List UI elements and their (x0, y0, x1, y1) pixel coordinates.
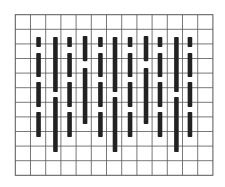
dash-segment (144, 36, 149, 61)
dash-segment (53, 97, 58, 152)
dash-segment (98, 112, 103, 137)
dash-segment (36, 82, 41, 107)
dash-segment (128, 112, 133, 137)
dash-segment (158, 37, 163, 47)
dash-segment (174, 97, 179, 152)
dash-segment (83, 68, 88, 124)
dash-segment (113, 37, 118, 92)
dash-bar-4-medium (83, 36, 88, 124)
dash-segment (188, 82, 193, 107)
dash-segment (128, 53, 133, 77)
dash-segment (98, 37, 103, 47)
dash-segment (128, 82, 133, 107)
dash-segment (98, 53, 103, 77)
dash-segment (144, 68, 149, 124)
dash-segment (174, 37, 179, 92)
dash-segment (158, 112, 163, 137)
dash-segment (83, 36, 88, 61)
dash-segment (98, 82, 103, 107)
dash-segment (36, 112, 41, 137)
dash-segment (188, 53, 193, 77)
dash-segment (36, 37, 41, 47)
figure-canvas (0, 0, 225, 187)
dash-segment (128, 37, 133, 47)
dash-segment (188, 37, 193, 47)
dash-segment (67, 37, 72, 47)
dash-segment (67, 82, 72, 107)
dash-segment (67, 112, 72, 137)
dash-bar-8-medium (144, 36, 149, 124)
dash-pattern-figure (0, 0, 225, 187)
dash-segment (67, 53, 72, 77)
dash-segment (53, 37, 58, 92)
dash-segment (158, 82, 163, 107)
dash-segment (113, 97, 118, 152)
dash-segment (188, 112, 193, 137)
dash-segment (36, 53, 41, 77)
dash-segment (158, 53, 163, 77)
